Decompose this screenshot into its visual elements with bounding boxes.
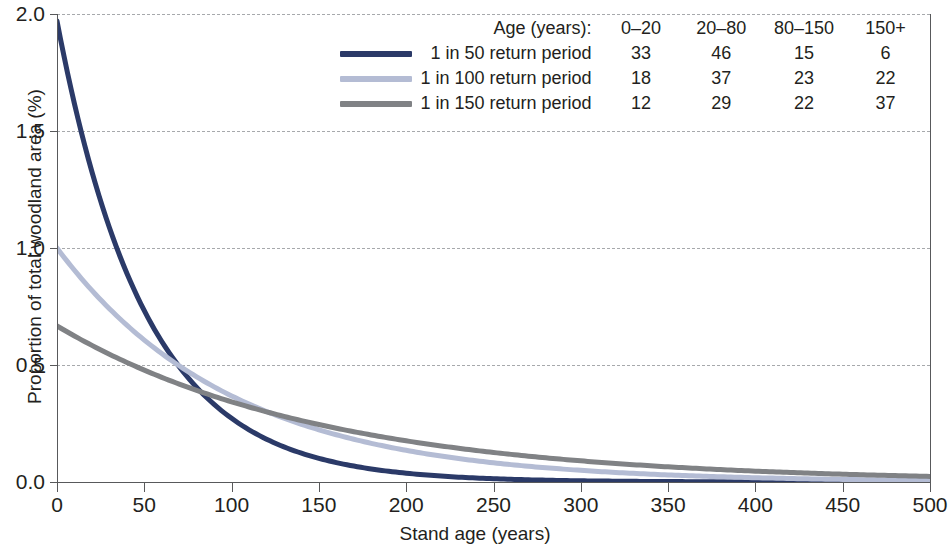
y-axis-title: Proportion of total woodland area (%) (25, 17, 44, 477)
legend-header: Age (years): 0–20 20–80 80–150 150+ (340, 16, 925, 41)
legend-swatch-cell (340, 41, 416, 66)
y-tick-1.0 (50, 248, 57, 249)
legend-header-age-label: Age (years): (416, 16, 601, 41)
legend-row: 1 in 150 return period12292237 (340, 91, 925, 116)
x-tick-label-300: 300 (563, 494, 598, 515)
legend-value-0-1: 46 (681, 41, 762, 66)
x-tick-0 (57, 483, 58, 492)
x-tick-label-50: 50 (133, 494, 156, 515)
x-tick-label-100: 100 (214, 494, 249, 515)
x-tick-label-0: 0 (51, 494, 63, 515)
legend-value-1-3: 22 (846, 66, 925, 91)
legend-value-1-0: 18 (602, 66, 681, 91)
plot-right-border (930, 14, 931, 483)
x-tick-400 (755, 483, 756, 492)
legend: Age (years): 0–20 20–80 80–150 150+ 1 in… (340, 16, 925, 116)
x-axis-title: Stand age (years) (0, 524, 950, 543)
x-tick-label-500: 500 (912, 494, 947, 515)
x-tick-200 (406, 483, 407, 492)
legend-value-2-3: 37 (846, 91, 925, 116)
legend-header-bin-1: 20–80 (681, 16, 762, 41)
y-axis-line (57, 14, 58, 483)
x-tick-label-200: 200 (389, 494, 424, 515)
legend-series-name: 1 in 50 return period (416, 41, 601, 66)
legend-series-name: 1 in 150 return period (416, 91, 601, 116)
x-tick-250 (494, 483, 495, 492)
legend-body: 1 in 50 return period33461561 in 100 ret… (340, 41, 925, 116)
x-tick-150 (319, 483, 320, 492)
x-tick-label-150: 150 (301, 494, 336, 515)
legend-value-1-2: 23 (762, 66, 846, 91)
legend-swatch-cell (340, 66, 416, 91)
legend-swatch-cell (340, 91, 416, 116)
legend-line-swatch-0 (340, 51, 412, 57)
legend-header-row: Age (years): 0–20 20–80 80–150 150+ (340, 16, 925, 41)
series-line-1 (57, 248, 930, 480)
legend-header-spacer (340, 16, 416, 41)
x-tick-label-250: 250 (476, 494, 511, 515)
legend-row: 1 in 100 return period18372322 (340, 66, 925, 91)
legend-value-0-2: 15 (762, 41, 846, 66)
legend-value-0-3: 6 (846, 41, 925, 66)
legend-header-bin-2: 80–150 (762, 16, 846, 41)
y-tick-2.0 (50, 14, 57, 15)
legend-line-swatch-2 (340, 101, 412, 107)
legend-table: Age (years): 0–20 20–80 80–150 150+ 1 in… (340, 16, 925, 116)
y-tick-0.5 (50, 365, 57, 366)
series-line-2 (57, 326, 930, 476)
x-tick-100 (232, 483, 233, 492)
chart-figure: 0.00.51.01.52.00501001502002503003504004… (0, 0, 950, 551)
legend-value-2-0: 12 (602, 91, 681, 116)
legend-value-1-1: 37 (681, 66, 762, 91)
x-tick-450 (843, 483, 844, 492)
legend-value-0-0: 33 (602, 41, 681, 66)
x-tick-50 (144, 483, 145, 492)
legend-row: 1 in 50 return period3346156 (340, 41, 925, 66)
x-tick-label-350: 350 (651, 494, 686, 515)
x-tick-300 (581, 483, 582, 492)
legend-header-bin-3: 150+ (846, 16, 925, 41)
y-tick-0.0 (50, 482, 57, 483)
x-tick-label-400: 400 (738, 494, 773, 515)
legend-value-2-2: 22 (762, 91, 846, 116)
y-tick-1.5 (50, 131, 57, 132)
x-tick-label-450: 450 (825, 494, 860, 515)
legend-line-swatch-1 (340, 76, 412, 82)
legend-value-2-1: 29 (681, 91, 762, 116)
x-tick-500 (930, 483, 931, 492)
legend-series-name: 1 in 100 return period (416, 66, 601, 91)
legend-header-bin-0: 0–20 (602, 16, 681, 41)
x-tick-350 (668, 483, 669, 492)
